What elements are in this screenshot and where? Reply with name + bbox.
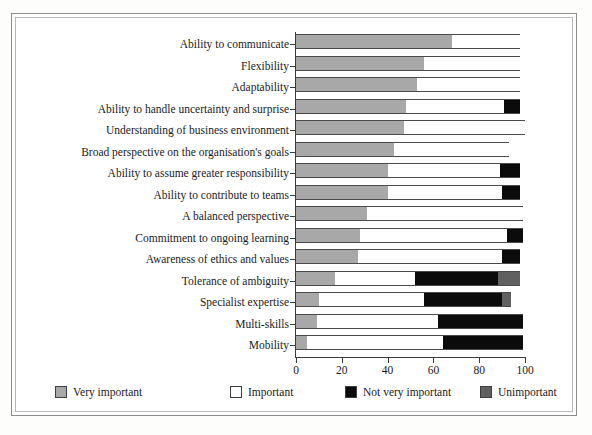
chart-legend: Very importantImportantNot very importan… — [55, 383, 555, 405]
bar-row — [296, 140, 525, 162]
legend-item: Unimportant — [480, 383, 557, 401]
y-axis-label: Mobility — [9, 339, 289, 351]
stacked-bar — [296, 206, 523, 221]
bar-segment — [404, 121, 525, 134]
y-axis-label: Tolerance of ambiguity — [9, 275, 289, 287]
y-axis-label: Broad perspective on the organisation's … — [9, 146, 289, 158]
bar-segment — [296, 250, 358, 263]
bar-row — [296, 97, 525, 119]
bar-row — [296, 269, 525, 291]
stacked-bar — [296, 77, 520, 92]
bar-segment — [417, 78, 520, 91]
bar-segment — [296, 57, 424, 70]
x-axis-tick — [296, 358, 297, 363]
y-axis-label: Understanding of business environment — [9, 124, 289, 136]
y-axis-tick — [290, 195, 295, 196]
bar-segment — [424, 57, 520, 70]
bar-segment — [500, 164, 521, 177]
legend-label: Unimportant — [498, 386, 557, 398]
x-axis-tick — [388, 358, 389, 363]
bar-row — [296, 290, 525, 312]
bar-segment — [296, 272, 335, 285]
y-axis-label: Ability to contribute to teams — [9, 189, 289, 201]
bar-segment — [443, 336, 523, 349]
bar-segment — [360, 229, 507, 242]
bar-row — [296, 312, 525, 334]
bar-segment — [296, 186, 388, 199]
bar-segment — [296, 78, 417, 91]
y-axis-tick — [290, 345, 295, 346]
bar-segment — [296, 164, 388, 177]
bar-segment — [296, 315, 317, 328]
bar-row — [296, 226, 525, 248]
bar-row — [296, 75, 525, 97]
bar-segment — [317, 315, 438, 328]
y-axis-tick — [290, 87, 295, 88]
bar-segment — [367, 207, 523, 220]
bar-segment — [296, 35, 452, 48]
stacked-bar — [296, 120, 525, 135]
bar-segment — [307, 336, 442, 349]
bar-row — [296, 333, 525, 355]
legend-swatch-icon — [345, 386, 357, 398]
plot-area — [296, 32, 525, 354]
y-axis-tick — [290, 173, 295, 174]
bar-segment — [415, 272, 497, 285]
bar-segment — [507, 229, 523, 242]
bar-segment — [388, 164, 500, 177]
bar-segment — [296, 121, 404, 134]
bar-segment — [438, 315, 523, 328]
x-axis-tick-label: 40 — [368, 364, 408, 376]
y-axis-label: Adaptability — [9, 81, 289, 93]
bar-segment — [394, 143, 509, 156]
bar-segment — [502, 186, 520, 199]
bar-segment — [452, 35, 521, 48]
stacked-bar — [296, 314, 523, 329]
stacked-bar — [296, 335, 523, 350]
stacked-bar — [296, 163, 520, 178]
bar-segment — [424, 293, 502, 306]
stacked-bar — [296, 228, 523, 243]
legend-swatch-icon — [230, 386, 242, 398]
y-axis-tick — [290, 66, 295, 67]
stacked-bar — [296, 142, 509, 157]
bar-segment — [296, 293, 319, 306]
x-axis-line — [295, 357, 526, 358]
bar-segment — [296, 143, 394, 156]
bar-row — [296, 32, 525, 54]
bar-segment — [502, 250, 520, 263]
bar-segment — [502, 293, 511, 306]
x-axis-tick-label: 60 — [413, 364, 453, 376]
x-axis-tick — [479, 358, 480, 363]
bar-segment — [406, 100, 504, 113]
y-axis-tick — [290, 324, 295, 325]
legend-label: Important — [248, 386, 293, 398]
bar-row — [296, 247, 525, 269]
legend-item: Important — [230, 383, 293, 401]
stacked-bar — [296, 292, 511, 307]
figure-scan: Ability to communicateFlexibilityAdaptab… — [0, 0, 592, 435]
y-axis-tick — [290, 302, 295, 303]
y-axis-label: Multi-skills — [9, 318, 289, 330]
y-axis-label: Ability to communicate — [9, 38, 289, 50]
bar-segment — [296, 336, 307, 349]
legend-swatch-icon — [55, 386, 67, 398]
x-axis-tick-label: 20 — [322, 364, 362, 376]
bar-row — [296, 54, 525, 76]
y-axis-tick — [290, 109, 295, 110]
stacked-bar — [296, 249, 520, 264]
y-axis-tick — [290, 152, 295, 153]
stacked-bar — [296, 99, 520, 114]
bar-segment — [296, 100, 406, 113]
bar-row — [296, 183, 525, 205]
x-axis-tick-label: 80 — [459, 364, 499, 376]
y-axis-label: Ability to assume greater responsibility — [9, 167, 289, 179]
y-axis-label: Flexibility — [9, 60, 289, 72]
y-axis-tick — [290, 216, 295, 217]
bar-segment — [319, 293, 424, 306]
bar-segment — [335, 272, 415, 285]
y-axis-label: Specialist expertise — [9, 296, 289, 308]
x-axis-tick — [433, 358, 434, 363]
bar-segment — [296, 207, 367, 220]
legend-swatch-icon — [480, 386, 492, 398]
